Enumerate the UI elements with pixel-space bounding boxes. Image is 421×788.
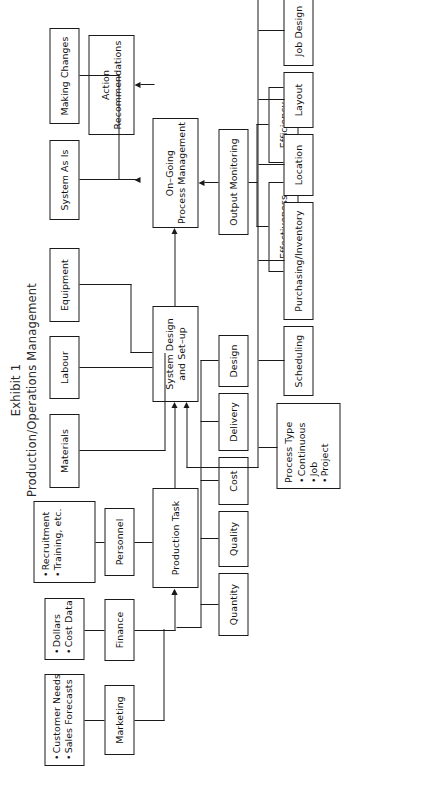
- connector-input-bus: [163, 629, 164, 721]
- connector-equipment-over: [130, 284, 131, 353]
- production-item-delivery[interactable]: Delivery: [218, 393, 248, 451]
- arrow-ongoing-to-action: [134, 82, 140, 88]
- connector-labour-down: [79, 367, 152, 368]
- connector-feedback-bus: [118, 75, 119, 180]
- marketing-box[interactable]: Marketing: [104, 685, 134, 755]
- finance-bullet-1: Dollars: [50, 604, 62, 654]
- connector-marketing-down: [134, 720, 164, 721]
- connector-task-to-design: [174, 408, 175, 488]
- action-line-2: Recommendations: [111, 41, 122, 130]
- connector-scheduling-up: [258, 360, 284, 361]
- connector-finance-down: [134, 630, 175, 631]
- production-item-quantity[interactable]: Quantity: [218, 573, 248, 636]
- connector-delivery-up: [200, 421, 218, 422]
- system-design-line-2: and Set–up: [175, 327, 186, 381]
- system-design-box[interactable]: System Design and Set–up: [152, 306, 198, 402]
- action-recommendations-box[interactable]: Action Recommendations: [88, 35, 134, 135]
- connector-feedback-stub: [118, 179, 138, 180]
- connector-system-items-bus: [257, 0, 258, 468]
- connector-process-type-up: [258, 447, 277, 448]
- connector-personnel-down: [134, 542, 152, 543]
- equipment-box[interactable]: Equipment: [49, 248, 79, 322]
- connector-design-to-ongoing: [174, 234, 175, 306]
- system-as-is-box[interactable]: System As Is: [49, 140, 79, 220]
- output-monitoring-box[interactable]: Output Monitoring: [218, 129, 248, 235]
- production-item-quality[interactable]: Quality: [218, 511, 248, 567]
- connector-quantity-up: [200, 604, 218, 605]
- connector-input-to-task: [174, 595, 175, 631]
- marketing-bullet-2: Sales Forecasts: [62, 680, 74, 760]
- system-item-scheduling[interactable]: Scheduling: [283, 326, 313, 396]
- connector-equipment-join: [130, 352, 152, 353]
- connector-monitor-bus-up: [248, 182, 257, 183]
- system-item-location[interactable]: Location: [283, 134, 313, 196]
- diagram-canvas: Exhibit 1 Production/Operations Manageme…: [0, 0, 421, 788]
- connector-equipment-down: [79, 284, 131, 285]
- connector-ongoing-to-action: [140, 84, 154, 85]
- title-line-2: Production/Operations Management: [24, 280, 40, 500]
- finance-detail-box: Dollars Cost Data: [44, 598, 84, 660]
- connector-design-up: [200, 360, 218, 361]
- figure-title: Exhibit 1 Production/Operations Manageme…: [8, 280, 39, 500]
- connector-system-items-riser: [186, 467, 258, 468]
- arrow-task-items-to-task: [171, 589, 177, 595]
- personnel-bullet-1: Recruitment: [39, 507, 51, 577]
- system-item-job-design[interactable]: Job Design: [283, 0, 313, 66]
- production-item-cost[interactable]: Cost: [218, 457, 248, 505]
- connector-materials-down: [79, 450, 165, 451]
- connector-personnel-detail: [95, 542, 104, 543]
- connector-task-items-bus: [200, 360, 201, 628]
- connector-finance-detail: [84, 630, 104, 631]
- arrow-task-to-system-design: [171, 402, 177, 408]
- finance-bullet-2: Cost Data: [62, 604, 74, 654]
- process-type-bullet-2: Job: [307, 409, 319, 483]
- marketing-bullet-1: Customer Needs: [50, 680, 62, 760]
- system-item-layout[interactable]: Layout: [283, 72, 313, 128]
- ongoing-line-2: Process Management: [175, 122, 186, 224]
- materials-box[interactable]: Materials: [49, 414, 79, 488]
- arrow-output-to-ongoing: [198, 180, 204, 186]
- connector-quality-up: [200, 538, 218, 539]
- ongoing-process-box[interactable]: On–Going Process Management: [152, 118, 198, 228]
- connector-making-changes-down: [79, 75, 119, 76]
- connector-task-items-riser: [176, 627, 201, 628]
- production-item-design[interactable]: Design: [218, 335, 248, 387]
- connector-layout-up: [258, 99, 284, 100]
- connector-output-to-ongoing: [204, 182, 218, 183]
- connector-system-items-to-design: [186, 408, 187, 468]
- connector-location-up: [258, 164, 284, 165]
- finance-box[interactable]: Finance: [104, 599, 134, 661]
- personnel-bullet-2: Training, etc.: [51, 507, 63, 577]
- ongoing-line-1: On–Going: [163, 150, 174, 196]
- production-task-box[interactable]: Production Task: [152, 488, 198, 588]
- connector-jobdesign-up: [258, 30, 284, 31]
- title-line-1: Exhibit 1: [8, 280, 24, 500]
- marketing-detail-box: Customer Needs Sales Forecasts: [44, 674, 84, 766]
- process-type-bullet-3: Project: [318, 409, 330, 483]
- process-type-label: Process Type: [282, 409, 294, 483]
- connector-materials-to-bus: [164, 353, 165, 451]
- connector-marketing-detail: [84, 720, 104, 721]
- connector-purchasing-up: [258, 260, 284, 261]
- labour-box[interactable]: Labour: [49, 336, 79, 399]
- system-item-process-type[interactable]: Process Type Continuous Job Project: [276, 403, 340, 489]
- arrow-design-to-ongoing: [171, 228, 177, 234]
- connector-cost-up: [200, 480, 218, 481]
- personnel-detail-box: Recruitment Training, etc.: [33, 501, 95, 583]
- arrow-system-items-to-design: [183, 402, 189, 408]
- process-type-bullet-1: Continuous: [295, 409, 307, 483]
- personnel-box[interactable]: Personnel: [104, 508, 134, 576]
- system-item-purchasing-inventory[interactable]: Purchasing/Inventory: [283, 202, 313, 320]
- making-changes-box[interactable]: Making Changes: [49, 28, 79, 124]
